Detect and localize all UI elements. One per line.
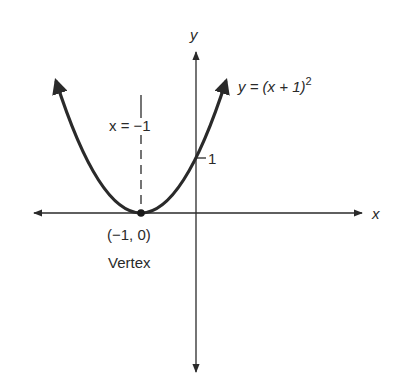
- axis-of-symmetry-label: x = −1: [109, 117, 151, 134]
- vertex-coords-label: (−1, 0): [107, 226, 151, 243]
- equation-label: y = (x + 1)2: [237, 75, 312, 95]
- parabola-diagram: y x y = (x + 1)2 x = −1 1 (−1, 0) Vertex: [0, 0, 398, 378]
- y-intercept-tick-label: 1: [208, 150, 216, 167]
- vertex-point: [137, 209, 145, 217]
- x-axis-label: x: [371, 205, 380, 222]
- y-axis-label: y: [189, 26, 199, 43]
- vertex-label: Vertex: [108, 254, 151, 271]
